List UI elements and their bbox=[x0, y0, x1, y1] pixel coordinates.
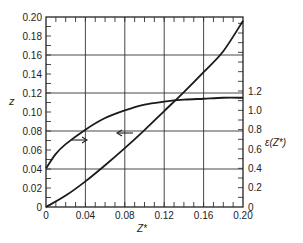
y2-axis-label: ε(Z*) bbox=[265, 137, 286, 148]
y-tick-label: 0.12 bbox=[23, 88, 43, 99]
x-tick-label: 0.08 bbox=[115, 210, 135, 221]
x-tick-label: 0 bbox=[43, 210, 49, 221]
y2-tick-label: 0.4 bbox=[248, 163, 262, 174]
y2-tick-label: 0.8 bbox=[248, 124, 262, 135]
y-tick-label: 0.14 bbox=[23, 69, 43, 80]
plot-frame bbox=[46, 17, 243, 207]
y-tick-label: 0.04 bbox=[23, 164, 43, 175]
y-tick-label: 0.06 bbox=[23, 145, 43, 156]
axis-ticks bbox=[46, 17, 243, 207]
dual-axis-line-chart: 00.040.080.120.160.2000.020.040.060.080.… bbox=[0, 0, 303, 243]
y-tick-label: 0.08 bbox=[23, 126, 43, 137]
x-axis-label: Z* bbox=[136, 223, 148, 234]
y-tick-label: 0.18 bbox=[23, 31, 43, 42]
y2-tick-label: 1.2 bbox=[248, 86, 262, 97]
y-tick-label: 0.10 bbox=[23, 107, 43, 118]
y2-tick-label: 0.2 bbox=[248, 182, 262, 193]
y-tick-label: 0.02 bbox=[23, 183, 43, 194]
y-tick-label: 0 bbox=[36, 202, 42, 213]
x-tick-label: 0.12 bbox=[154, 210, 174, 221]
tick-labels: 00.040.080.120.160.2000.020.040.060.080.… bbox=[23, 12, 263, 222]
y-tick-label: 0.20 bbox=[23, 12, 43, 23]
x-tick-label: 0.16 bbox=[194, 210, 214, 221]
data-curves bbox=[46, 21, 243, 207]
y-tick-label: 0.16 bbox=[23, 50, 43, 61]
y2-tick-label: 0 bbox=[248, 202, 254, 213]
x-tick-label: 0.04 bbox=[76, 210, 96, 221]
y2-tick-label: 1.0 bbox=[248, 105, 262, 116]
epsilon-curve bbox=[46, 98, 243, 169]
y2-tick-label: 0.6 bbox=[248, 144, 262, 155]
grid-lines bbox=[46, 17, 243, 207]
z-curve bbox=[46, 21, 243, 207]
y-axis-label: z bbox=[8, 95, 15, 107]
